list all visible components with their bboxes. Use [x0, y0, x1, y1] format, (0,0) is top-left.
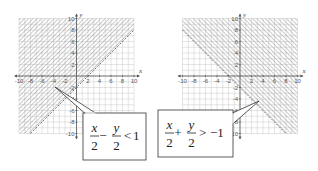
- denominator: 2: [113, 138, 120, 153]
- y-tick-label: -8: [69, 119, 75, 125]
- y-arrow-down-icon: [239, 137, 242, 140]
- y-tick-label: -10: [66, 131, 75, 137]
- x-tick-label: -10: [178, 78, 187, 84]
- y-arrow-down-icon: [75, 137, 78, 140]
- y-axis-label: y: [242, 11, 247, 19]
- y-axis-label: y: [79, 11, 84, 19]
- rhs-value: −1: [210, 125, 224, 140]
- y-arrow-icon: [239, 14, 242, 17]
- y-arrow-icon: [75, 14, 78, 17]
- numerator-x: x: [91, 120, 98, 135]
- operator: −: [99, 128, 106, 143]
- rhs-value: 1: [133, 128, 140, 143]
- denominator: 2: [188, 135, 195, 150]
- x-tick-label: -2: [226, 78, 232, 84]
- x-tick-label: -8: [28, 78, 34, 84]
- y-tick-label: -6: [69, 108, 75, 114]
- inequality-figure: xy-10-8-6-4-2246810108642-2-4-6-8-10 xy-…: [0, 0, 318, 171]
- denominator: 2: [166, 135, 173, 150]
- x-tick-label: 10: [294, 78, 301, 84]
- denominator: 2: [91, 138, 98, 153]
- x-tick-label: 8: [121, 78, 125, 84]
- x-tick-label: -4: [51, 78, 57, 84]
- x-tick-label: 6: [109, 78, 113, 84]
- x-tick-label: -2: [62, 78, 68, 84]
- operator: +: [174, 125, 181, 140]
- numerator-y: y: [187, 117, 195, 132]
- y-tick-label: -2: [69, 85, 75, 91]
- x-tick-label: -6: [39, 78, 45, 84]
- y-tick-label: -4: [233, 96, 239, 102]
- callout-right-inequality: x2+y2>−1: [158, 101, 259, 157]
- x-tick-label: 10: [131, 78, 138, 84]
- x-axis-label: x: [138, 67, 143, 75]
- x-tick-label: -8: [191, 78, 197, 84]
- x-tick-label: 2: [86, 78, 90, 84]
- numerator-y: y: [112, 120, 120, 135]
- y-tick-label: 10: [68, 16, 75, 22]
- x-tick-label: -4: [214, 78, 220, 84]
- x-axis-label: x: [302, 67, 307, 75]
- relation-symbol: <: [124, 128, 131, 143]
- y-tick-label: -2: [233, 85, 239, 91]
- x-tick-label: 4: [98, 78, 102, 84]
- relation-symbol: >: [199, 125, 206, 140]
- numerator-x: x: [166, 117, 173, 132]
- x-tick-label: -6: [203, 78, 209, 84]
- y-tick-label: 10: [231, 16, 238, 22]
- x-tick-label: -10: [15, 78, 24, 84]
